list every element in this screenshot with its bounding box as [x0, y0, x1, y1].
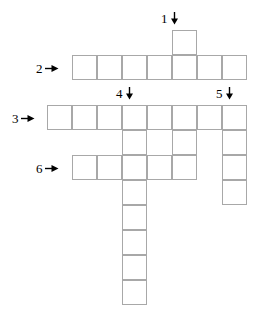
- crossword-cell[interactable]: [222, 105, 247, 130]
- arrow-right-icon: [45, 164, 59, 173]
- clue-number: 5: [216, 87, 223, 100]
- crossword-cell[interactable]: [122, 205, 147, 230]
- arrow-down-icon: [170, 12, 179, 25]
- crossword-cell[interactable]: [97, 55, 122, 80]
- clue-label-1-down[interactable]: 1: [161, 12, 179, 25]
- clue-label-3-across[interactable]: 3: [12, 112, 35, 125]
- crossword-cell[interactable]: [147, 155, 172, 180]
- arrow-down-icon: [125, 87, 134, 100]
- clue-number: 6: [36, 162, 43, 175]
- crossword-puzzle: 123456: [0, 0, 256, 316]
- crossword-cell[interactable]: [97, 105, 122, 130]
- crossword-cell[interactable]: [122, 180, 147, 205]
- crossword-cell[interactable]: [197, 105, 222, 130]
- crossword-cell[interactable]: [122, 255, 147, 280]
- arrow-right-icon: [21, 114, 35, 123]
- crossword-cell[interactable]: [147, 105, 172, 130]
- clue-number: 1: [161, 12, 168, 25]
- crossword-cell[interactable]: [222, 130, 247, 155]
- clue-number: 3: [12, 112, 19, 125]
- arrow-right-icon: [45, 64, 59, 73]
- crossword-cell[interactable]: [122, 55, 147, 80]
- crossword-cell[interactable]: [122, 155, 147, 180]
- crossword-cell[interactable]: [222, 55, 247, 80]
- clue-label-4-down[interactable]: 4: [116, 87, 134, 100]
- crossword-cell[interactable]: [172, 105, 197, 130]
- crossword-cell[interactable]: [72, 105, 97, 130]
- arrow-down-icon: [225, 87, 234, 100]
- clue-number: 2: [36, 62, 43, 75]
- crossword-cell[interactable]: [172, 130, 197, 155]
- crossword-cell[interactable]: [222, 180, 247, 205]
- crossword-cell[interactable]: [147, 55, 172, 80]
- clue-label-5-down[interactable]: 5: [216, 87, 234, 100]
- clue-label-2-across[interactable]: 2: [36, 62, 59, 75]
- crossword-cell[interactable]: [97, 155, 122, 180]
- crossword-cell[interactable]: [122, 230, 147, 255]
- crossword-cell[interactable]: [172, 155, 197, 180]
- clue-label-6-across[interactable]: 6: [36, 162, 59, 175]
- crossword-cell[interactable]: [122, 130, 147, 155]
- crossword-cell[interactable]: [122, 105, 147, 130]
- crossword-cell[interactable]: [72, 55, 97, 80]
- crossword-cell[interactable]: [197, 55, 222, 80]
- crossword-cell[interactable]: [47, 105, 72, 130]
- crossword-cell[interactable]: [222, 155, 247, 180]
- crossword-cell[interactable]: [172, 30, 197, 55]
- crossword-cell[interactable]: [72, 155, 97, 180]
- crossword-cell[interactable]: [172, 55, 197, 80]
- clue-number: 4: [116, 87, 123, 100]
- crossword-cell[interactable]: [122, 280, 147, 305]
